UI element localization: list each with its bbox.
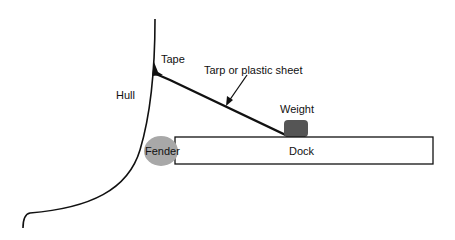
arrow-line: [229, 75, 247, 101]
tape-label: Tape: [161, 53, 185, 65]
weight-label: Weight: [280, 103, 314, 115]
tarp-label: Tarp or plastic sheet: [204, 64, 302, 76]
hull-outline: [23, 19, 155, 228]
dock-label: Dock: [289, 145, 314, 157]
hull-label: Hull: [116, 89, 135, 101]
weight-block: [284, 120, 308, 137]
fender-label: Fender: [145, 145, 180, 157]
diagram-canvas: [0, 0, 455, 240]
